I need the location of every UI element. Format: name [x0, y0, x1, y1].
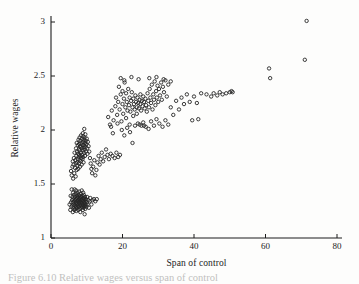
data-point-marker [125, 126, 128, 129]
data-point-marker [120, 128, 123, 131]
data-point-marker [115, 151, 118, 154]
data-point-marker [152, 124, 155, 127]
data-point-marker [125, 100, 128, 103]
data-point-marker [151, 108, 154, 111]
data-point-marker [169, 106, 172, 109]
data-point-marker [155, 96, 158, 99]
data-point-marker [135, 112, 138, 115]
data-point-marker [158, 122, 161, 125]
data-point-marker [224, 92, 227, 95]
data-point-marker [148, 76, 151, 79]
data-point-marker [130, 91, 133, 94]
data-point-marker [124, 116, 127, 119]
data-point-marker [209, 95, 212, 98]
figure-caption: Figure 6.10 Relative wages versus span o… [8, 272, 359, 284]
data-point-marker [161, 125, 164, 128]
data-point-marker [152, 93, 155, 96]
data-point-marker [124, 92, 127, 95]
data-point-marker [199, 92, 202, 95]
data-point-marker [165, 95, 168, 98]
data-point-marker [149, 101, 152, 104]
data-point-marker [95, 168, 98, 171]
data-point-marker [127, 87, 130, 90]
data-point-marker [120, 120, 123, 123]
data-point-marker [157, 87, 160, 90]
data-point-marker [192, 95, 195, 98]
data-point-marker [150, 83, 153, 86]
data-point-marker [130, 75, 133, 78]
data-point-marker [122, 112, 125, 115]
data-point-marker [164, 119, 167, 122]
data-point-marker [115, 113, 118, 116]
data-point-marker [188, 100, 191, 103]
data-point-marker [94, 174, 97, 177]
y-axis-label: Relative wages [10, 80, 20, 176]
data-point-marker [154, 103, 157, 106]
data-point-marker [216, 94, 219, 97]
data-points [68, 19, 308, 216]
x-tick-label: 40 [179, 241, 209, 251]
y-tick-label: 3 [15, 16, 45, 26]
tick-marks [51, 22, 337, 238]
data-point-marker [132, 114, 135, 117]
data-point-marker [112, 119, 115, 122]
data-point-marker [104, 148, 107, 151]
data-point-marker [161, 85, 164, 88]
data-point-marker [159, 81, 162, 84]
data-point-marker [121, 89, 124, 92]
data-point-marker [128, 123, 131, 126]
data-point-marker [182, 102, 185, 105]
axes [51, 16, 342, 238]
data-point-marker [205, 93, 208, 96]
data-point-marker [167, 83, 170, 86]
data-point-marker [116, 122, 119, 125]
data-point-marker [174, 99, 177, 102]
data-point-marker [303, 58, 306, 61]
x-tick-label: 0 [36, 241, 66, 251]
data-point-marker [145, 110, 148, 113]
data-point-marker [167, 123, 170, 126]
data-point-marker [137, 78, 140, 81]
data-point-marker [221, 93, 224, 96]
data-point-marker [90, 203, 93, 206]
y-tick-label: 1.5 [15, 178, 45, 188]
data-point-marker [97, 154, 100, 157]
data-point-marker [147, 127, 150, 130]
data-point-marker [114, 96, 117, 99]
data-point-marker [155, 118, 158, 121]
data-point-marker [305, 19, 308, 22]
data-point-marker [149, 96, 152, 99]
data-point-marker [191, 119, 194, 122]
data-point-marker [127, 103, 130, 106]
data-point-marker [110, 109, 113, 112]
figure-container: 020406080 11.522.53 Span of control Rela… [0, 0, 359, 284]
data-point-marker [101, 160, 104, 163]
data-point-marker [123, 79, 126, 82]
data-point-marker [117, 100, 120, 103]
data-point-marker [93, 159, 96, 162]
data-point-marker [83, 127, 86, 130]
data-point-marker [153, 80, 156, 83]
data-point-marker [122, 97, 125, 100]
data-point-marker [162, 91, 165, 94]
data-point-marker [195, 101, 198, 104]
data-point-marker [117, 85, 120, 88]
data-point-marker [83, 213, 86, 216]
data-point-marker [268, 76, 271, 79]
y-tick-label: 1 [15, 232, 45, 242]
data-point-marker [111, 132, 114, 135]
data-point-marker [142, 121, 145, 124]
data-point-marker [118, 108, 121, 111]
data-point-marker [177, 108, 180, 111]
x-tick-label: 60 [251, 241, 281, 251]
data-point-marker [267, 67, 270, 70]
data-point-marker [69, 169, 72, 172]
data-point-marker [113, 156, 116, 159]
data-point-marker [119, 76, 122, 79]
data-point-marker [146, 92, 149, 95]
data-point-marker [90, 172, 93, 175]
data-point-marker [139, 109, 142, 112]
data-point-marker [149, 120, 152, 123]
x-tick-label: 80 [322, 241, 352, 251]
data-point-marker [114, 105, 117, 108]
